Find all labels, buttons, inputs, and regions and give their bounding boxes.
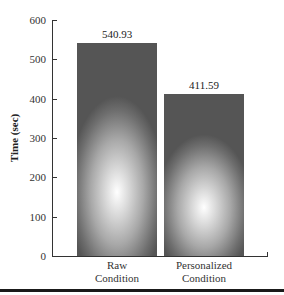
y-tick-label: 100 — [6, 211, 46, 223]
x-axis-line — [52, 256, 268, 257]
y-tick — [52, 59, 57, 60]
y-tick — [52, 20, 57, 21]
y-tick-label: 0 — [6, 250, 46, 262]
y-tick — [52, 256, 57, 257]
y-tick-label: 300 — [6, 132, 46, 144]
bottom-rule-divider — [0, 289, 284, 292]
y-tick — [52, 217, 57, 218]
bar-chart: Time (sec) 0100200300400500600 540.93Raw… — [0, 0, 284, 295]
y-tick-label: 500 — [6, 53, 46, 65]
y-tick-label: 400 — [6, 93, 46, 105]
bar — [77, 43, 157, 256]
y-tick — [52, 99, 57, 100]
y-tick — [52, 138, 57, 139]
x-category-label: PersonalizedCondition — [154, 259, 254, 285]
bar-value-label: 540.93 — [77, 28, 157, 40]
y-tick-label: 600 — [6, 14, 46, 26]
bar-value-label: 411.59 — [164, 79, 244, 91]
y-tick-label: 200 — [6, 171, 46, 183]
bar — [164, 94, 244, 256]
x-category-label: RawCondition — [67, 259, 167, 285]
y-tick — [52, 177, 57, 178]
x-axis-end-tick — [267, 252, 268, 257]
